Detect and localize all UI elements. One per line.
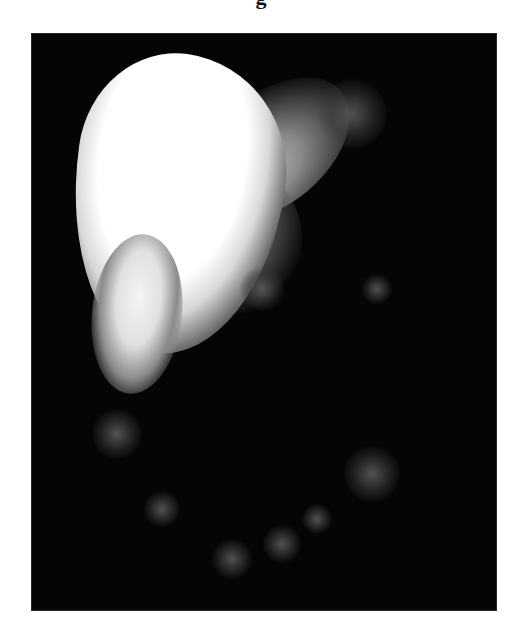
faint-spot: [144, 491, 180, 527]
faint-spot: [362, 274, 392, 304]
faint-spot: [212, 539, 252, 579]
faint-spot: [317, 79, 387, 149]
faint-spot: [92, 409, 142, 459]
faint-spot: [344, 446, 400, 502]
faint-spot: [240, 267, 284, 311]
micrograph-image: [32, 34, 496, 610]
faint-spot: [302, 504, 332, 534]
caption-fragment: g: [0, 0, 522, 8]
faint-spot: [263, 525, 301, 563]
